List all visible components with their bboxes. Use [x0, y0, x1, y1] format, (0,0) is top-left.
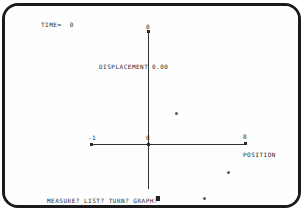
text-cursor — [156, 196, 160, 201]
crt-monitor-bezel: TIME= 0 DISPLACEMENT 0.00 -1 0 8 0 POSIT… — [2, 3, 301, 208]
data-point — [227, 171, 230, 174]
data-point — [203, 197, 206, 200]
displacement-label: DISPLACEMENT — [99, 63, 148, 70]
command-prompt[interactable]: MEASURE? LIST? TURN? GRAPH? — [47, 197, 158, 204]
y-axis-tick-label-top: 0 — [146, 23, 150, 30]
data-point — [175, 112, 178, 115]
y-axis-tick-top — [147, 30, 150, 33]
time-readout: TIME= 0 — [41, 21, 74, 28]
x-axis-tick-label-left: -1 — [88, 134, 96, 141]
displacement-value: 0.00 — [152, 63, 168, 70]
x-axis-tick-label-right: 8 — [243, 133, 247, 140]
y-axis-line — [148, 31, 149, 189]
x-axis-tick-zero — [147, 143, 150, 146]
x-axis-line — [91, 144, 247, 145]
x-axis-title: POSITION — [243, 151, 276, 158]
crt-screen: TIME= 0 DISPLACEMENT 0.00 -1 0 8 0 POSIT… — [5, 6, 298, 205]
x-axis-tick-left — [90, 143, 93, 146]
x-axis-tick-label-zero: 0 — [146, 134, 150, 141]
x-axis-tick-right — [244, 142, 247, 145]
